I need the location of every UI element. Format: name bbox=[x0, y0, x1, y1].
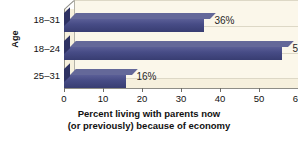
data-label-18-31: 36% bbox=[214, 15, 234, 26]
x-tick-label: 40 bbox=[208, 93, 232, 104]
bar-25-31 bbox=[64, 69, 126, 82]
x-tick-label: 0 bbox=[52, 93, 76, 104]
y-tick-label: 18–24 bbox=[16, 43, 60, 54]
x-tick bbox=[220, 88, 221, 92]
y-tick-label: 18–31 bbox=[16, 14, 60, 25]
y-axis-line-back bbox=[74, 0, 75, 79]
x-tick bbox=[181, 88, 182, 92]
bar-18-24 bbox=[64, 41, 282, 54]
plot-back-wall bbox=[74, 0, 298, 79]
x-tick-label: 50 bbox=[247, 93, 271, 104]
bar-front-face bbox=[64, 75, 126, 88]
x-tick bbox=[259, 88, 260, 92]
x-axis-title-line1: Percent living with parents now bbox=[0, 108, 298, 120]
x-tick bbox=[103, 88, 104, 92]
x-tick-label: 60 bbox=[286, 93, 298, 104]
data-label-18-24: 56% bbox=[292, 43, 298, 54]
bar-front-face bbox=[64, 19, 204, 32]
x-tick bbox=[142, 88, 143, 92]
x-tick bbox=[64, 88, 65, 92]
gridline bbox=[74, 0, 298, 1]
x-axis-title: Percent living with parents now (or prev… bbox=[0, 108, 298, 132]
bar-18-31 bbox=[64, 13, 204, 26]
bar-chart: Age 18–31 18–24 25–31 36% 56% 16% 010203… bbox=[0, 0, 298, 143]
x-tick-label: 30 bbox=[169, 93, 193, 104]
y-tick-label: 25–31 bbox=[16, 70, 60, 81]
data-label-25-31: 16% bbox=[136, 71, 156, 82]
x-tick-label: 10 bbox=[91, 93, 115, 104]
bar-front-face bbox=[64, 47, 282, 60]
x-axis-title-line2: (or previously) because of economy bbox=[0, 120, 298, 132]
x-tick-label: 20 bbox=[130, 93, 154, 104]
